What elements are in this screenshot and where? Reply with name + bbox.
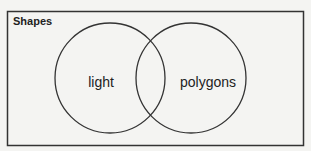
venn-diagram: Shapes light polygons (0, 0, 311, 151)
universe-title: Shapes (13, 15, 52, 27)
universe-box (8, 12, 304, 146)
set-label-light: light (88, 74, 114, 90)
set-label-polygons: polygons (180, 74, 236, 90)
